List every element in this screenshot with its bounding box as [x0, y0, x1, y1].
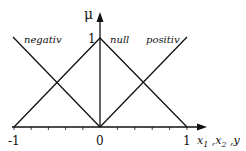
x-axis-arrow-icon — [197, 124, 207, 131]
membership-diagram: μ 1 negativ null positiv -1 0 1 x1 ,x2 ,… — [0, 0, 246, 151]
set-label-positiv: positiv — [146, 34, 180, 45]
x-axis-label: x1 ,x2 ,y — [197, 134, 241, 149]
peak-label: 1 — [88, 32, 96, 46]
y-axis-arrow-icon — [97, 12, 104, 22]
tick-label-neg1: -1 — [8, 134, 20, 148]
tick-label-0: 0 — [96, 134, 104, 148]
set-label-negativ: negativ — [24, 34, 62, 45]
set-negativ-line — [13, 37, 100, 127]
set-label-null: null — [110, 34, 129, 45]
tick-label-1: 1 — [183, 134, 191, 148]
y-axis-label: μ — [84, 6, 93, 22]
